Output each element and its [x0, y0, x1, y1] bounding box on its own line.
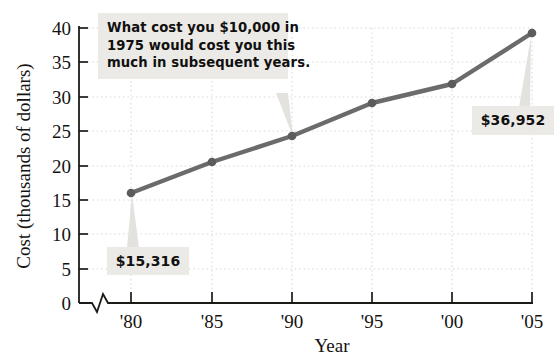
y-axis-tick-labels: 40 35 30 25 20 15 10 5 0	[52, 18, 71, 314]
y-tick-label: 25	[52, 121, 71, 142]
last-value-annotation-callout: $36,952	[472, 106, 554, 135]
x-tick-label: '05	[521, 311, 543, 332]
main-callout-leader	[276, 93, 293, 137]
y-tick-label: 20	[52, 156, 71, 177]
data-point	[127, 189, 136, 198]
data-point	[448, 80, 457, 89]
x-tick-label: '90	[281, 311, 303, 332]
y-tick-label: 15	[52, 190, 71, 211]
high-callout-leader	[519, 36, 531, 108]
y-axis-ticks	[79, 28, 88, 269]
data-point	[368, 99, 377, 108]
main-annotation-callout: What cost you $10,000 in 1975 would cost…	[98, 13, 288, 79]
y-tick-label: 30	[52, 87, 71, 108]
x-tick-label: '95	[361, 311, 383, 332]
line-chart: 40 35 30 25 20 15 10 5 0 '80 '85 '90 '95…	[0, 0, 554, 362]
y-tick-label: 35	[52, 52, 71, 73]
first-value-annotation-callout: $15,316	[107, 247, 189, 275]
x-axis-tick-labels: '80 '85 '90 '95 '00 '05	[120, 311, 543, 332]
y-axis-title: Cost (thousands of dollars)	[13, 63, 35, 268]
data-point	[528, 29, 537, 38]
y-tick-label: 40	[52, 18, 71, 39]
data-point	[208, 158, 217, 167]
main-callout-line-2: 1975 would cost you this	[107, 37, 279, 55]
low-callout-leader	[127, 194, 139, 248]
x-tick-label: '80	[120, 311, 142, 332]
x-tick-label: '85	[201, 311, 223, 332]
x-axis-line	[79, 294, 533, 312]
main-callout-line-3: much in subsequent years.	[107, 54, 279, 72]
y-tick-label: 0	[62, 293, 72, 314]
y-tick-label: 10	[52, 224, 71, 245]
main-callout-line-1: What cost you $10,000 in	[107, 19, 279, 37]
data-point	[288, 132, 297, 141]
x-axis-ticks	[131, 292, 532, 303]
x-tick-label: '00	[441, 311, 463, 332]
x-axis-title: Year	[314, 335, 350, 356]
y-tick-label: 5	[62, 259, 72, 280]
